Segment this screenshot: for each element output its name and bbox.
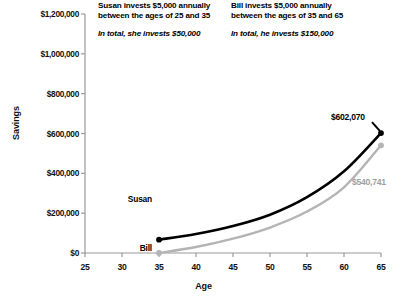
value-label-susan: $602,070 xyxy=(331,112,365,122)
series-point-markers xyxy=(156,130,384,256)
series-label-susan: Susan xyxy=(128,194,152,204)
axis-lines xyxy=(85,14,381,253)
series-leader-lines xyxy=(372,122,380,131)
plot-area xyxy=(0,0,407,297)
savings-comparison-chart: Susan invests $5,000 annually between th… xyxy=(0,0,407,297)
axis-tick-marks xyxy=(81,14,381,257)
series-curves xyxy=(159,133,381,253)
value-label-bill: $540,741 xyxy=(352,177,386,187)
series-label-bill: Bill xyxy=(140,243,152,253)
